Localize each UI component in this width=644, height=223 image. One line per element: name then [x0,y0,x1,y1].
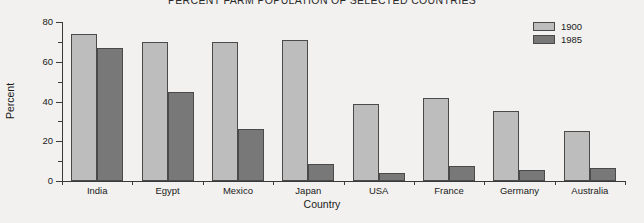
x-tick-label-mexico: Mexico [223,186,253,196]
bar-mexico-1985 [238,129,264,181]
legend-label-1985: 1985 [561,35,582,45]
y-tick-label: 80 [42,17,53,27]
bar-mexico-1900 [212,42,238,181]
x-tick-label-australia: Australia [571,186,608,196]
bar-australia-1900 [564,131,590,181]
y-tick-label: 40 [42,97,53,107]
y-axis-line [62,22,63,181]
bar-germany-1900 [493,111,519,181]
bar-india-1900 [71,34,97,181]
bar-egypt-1985 [168,92,194,181]
x-tick-label-egypt: Egypt [155,186,179,196]
y-tick-minor [58,42,62,43]
legend: 19001985 [533,22,582,47]
x-tick [555,181,556,185]
y-axis-label: Percent [4,83,16,119]
legend-swatch-1900 [533,22,555,31]
bar-france-1985 [449,166,475,181]
y-tick-label: 20 [42,137,53,147]
legend-item-1985: 1985 [533,35,582,45]
y-tick-minor [58,82,62,83]
bar-japan-1985 [308,164,334,181]
y-tick-label: 0 [48,176,53,186]
x-tick [625,181,626,185]
chart-title: PERCENT FARM POPULATION OF SELECTED COUN… [0,0,644,6]
x-tick [132,181,133,185]
bar-india-1985 [97,48,123,181]
x-tick-label-india: India [87,186,108,196]
y-tick [56,62,62,63]
legend-swatch-1985 [533,35,555,44]
x-tick [273,181,274,185]
x-tick [414,181,415,185]
y-tick-label: 60 [42,57,53,67]
bar-japan-1900 [282,40,308,181]
legend-label-1900: 1900 [561,22,582,32]
x-tick [62,181,63,185]
y-tick [56,141,62,142]
x-axis-label: Country [0,198,644,210]
y-tick [56,22,62,23]
x-tick-label-japan: Japan [295,186,321,196]
y-tick [56,102,62,103]
bar-egypt-1900 [142,42,168,181]
y-tick-minor [58,161,62,162]
bar-australia-1985 [590,168,616,181]
y-tick-minor [58,121,62,122]
x-tick-label-france: France [434,186,464,196]
x-tick [344,181,345,185]
bar-chart-figure: PERCENT FARM POPULATION OF SELECTED COUN… [0,0,644,223]
x-tick [484,181,485,185]
bar-usa-1900 [353,104,379,181]
x-tick-label-usa: USA [369,186,389,196]
bar-france-1900 [423,98,449,181]
x-tick-label-germany: Germany [500,186,539,196]
bar-usa-1985 [379,173,405,181]
bar-germany-1985 [519,170,545,181]
legend-item-1900: 1900 [533,22,582,32]
x-tick [203,181,204,185]
